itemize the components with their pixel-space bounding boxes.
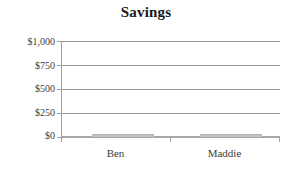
x-tick-mark-middle <box>170 137 171 142</box>
gridline-1000 <box>62 41 280 42</box>
y-tick-label-1000: $1,000 <box>3 37 55 47</box>
x-tick-mark-left <box>61 137 62 142</box>
x-tick-label-ben: Ben <box>61 147 170 160</box>
y-tick-label-250: $250 <box>3 108 55 118</box>
y-axis-labels: $1,000 $750 $500 $250 $0 <box>0 0 55 171</box>
gridline-750 <box>62 65 280 66</box>
gridline-500 <box>62 89 280 90</box>
savings-bar-chart: Savings $1,000 $750 $500 $250 $0 Ben Mad… <box>0 0 292 171</box>
y-tick-label-500: $500 <box>3 84 55 94</box>
x-tick-mark-right <box>279 137 280 142</box>
y-tick-label-0: $0 <box>3 131 55 141</box>
x-tick-label-maddie: Maddie <box>170 147 279 160</box>
plot-area <box>62 41 280 137</box>
y-tick-label-750: $750 <box>3 61 55 71</box>
gridline-250 <box>62 113 280 114</box>
